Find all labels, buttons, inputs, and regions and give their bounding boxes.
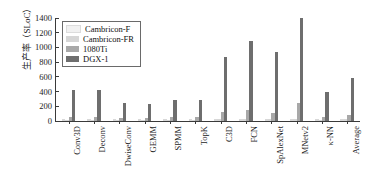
x-axis-tick-mark [221, 121, 222, 124]
y-axis-tick-label: 800 [39, 57, 56, 67]
x-axis-tick-label: κ-NN [325, 126, 335, 145]
bar-group: C3D [208, 18, 233, 121]
bar [72, 90, 75, 121]
x-axis-tick-label: MNetv2 [300, 126, 310, 154]
bar [275, 52, 278, 121]
bar [123, 103, 126, 121]
legend-swatch [66, 46, 79, 52]
bar-group: MNetv2 [284, 18, 309, 121]
bar [351, 78, 354, 121]
x-axis-tick-label: TopK [199, 126, 209, 145]
bar [97, 90, 100, 121]
x-axis-tick-label: GEMM [148, 126, 158, 152]
legend-label: DGX-1 [83, 54, 109, 64]
bar-group: Average [335, 18, 360, 121]
legend-label: Cambricon-FR [83, 34, 134, 44]
x-axis-tick-label: Average [351, 126, 361, 154]
legend-entry: Cambricon-FR [66, 34, 134, 44]
bar [249, 41, 252, 121]
legend-swatch [66, 36, 79, 42]
legend-entry: DGX-1 [66, 54, 134, 64]
bar [173, 100, 176, 121]
bar-group: SPMM [157, 18, 182, 121]
bar-chart-figure: 生产率（SLoC） 1400120010008006004002000 Conv… [0, 0, 372, 186]
x-axis-tick-mark [69, 121, 70, 124]
x-axis-tick-mark [246, 121, 247, 124]
chart-legend: Cambricon-FCambricon-FR1080TiDGX-1 [62, 21, 141, 67]
x-axis-tick-label: DwiseConv [123, 126, 133, 166]
bar-group: TopK [183, 18, 208, 121]
bar [148, 104, 151, 121]
y-axis-tick-label: 400 [39, 87, 56, 97]
legend-swatch [66, 25, 81, 33]
y-axis-tick-label: 200 [39, 101, 56, 111]
legend-label: Cambricon-F [85, 24, 130, 34]
legend-swatch [66, 56, 79, 62]
bar [325, 92, 328, 121]
x-axis-tick-label: SpAlexNet [275, 126, 285, 164]
bar-group: κ-NN [309, 18, 334, 121]
x-axis-tick-mark [145, 121, 146, 124]
legend-entry: 1080Ti [66, 44, 134, 54]
y-axis-tick-label: 1200 [35, 28, 56, 38]
y-axis-tick-label: 0 [48, 116, 56, 126]
x-axis-tick-label: FCN [249, 126, 259, 143]
x-axis-tick-mark [94, 121, 95, 124]
bar-group: SpAlexNet [259, 18, 284, 121]
x-axis-tick-label: C3D [224, 126, 234, 142]
bar-group: FCN [233, 18, 258, 121]
x-axis-tick-mark [322, 121, 323, 124]
x-axis-tick-label: Deconv [97, 126, 107, 152]
legend-entry: Cambricon-F [66, 24, 134, 34]
y-axis-tick-label: 1000 [35, 42, 56, 52]
y-axis-title: 生产率（SLoC） [20, 0, 33, 85]
x-axis-tick-mark [271, 121, 272, 124]
bar [199, 100, 202, 121]
bar [300, 18, 303, 121]
x-axis-tick-mark [195, 121, 196, 124]
x-axis-tick-label: Conv3D [72, 126, 82, 155]
x-axis-tick-mark [170, 121, 171, 124]
x-axis-tick-mark [297, 121, 298, 124]
x-axis-tick-label: SPMM [173, 126, 183, 151]
x-axis-tick-mark [119, 121, 120, 124]
y-axis-tick-label: 1400 [35, 13, 56, 23]
x-axis-tick-mark [347, 121, 348, 124]
y-axis-tick-label: 600 [39, 72, 56, 82]
bar [224, 57, 227, 121]
legend-label: 1080Ti [83, 44, 107, 54]
